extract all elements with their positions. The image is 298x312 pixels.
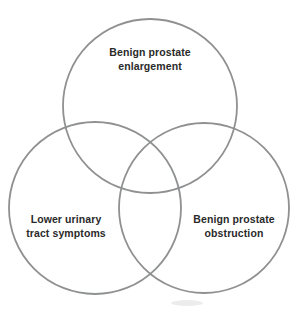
circle-benign-prostate-obstruction [119, 123, 289, 293]
label-line: Benign prostate [169, 212, 298, 226]
scan-smudge-artifact [171, 300, 203, 306]
label-line: Benign prostate [75, 45, 225, 59]
label-line: tract symptoms [1, 226, 131, 240]
label-line: Lower urinary [1, 212, 131, 226]
label-line: obstruction [169, 226, 298, 240]
set-label-benign-prostate-obstruction: Benign prostate obstruction [169, 212, 298, 240]
venn-diagram: Benign prostate enlargement Lower urinar… [0, 0, 298, 312]
set-label-benign-prostate-enlargement: Benign prostate enlargement [75, 45, 225, 73]
circle-lower-urinary-tract-symptoms [9, 122, 181, 294]
set-label-lower-urinary-tract-symptoms: Lower urinary tract symptoms [1, 212, 131, 240]
label-line: enlargement [75, 59, 225, 73]
